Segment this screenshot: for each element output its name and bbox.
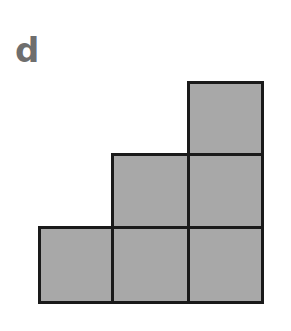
square-r1-c2 bbox=[187, 153, 264, 229]
square-r1-c1 bbox=[111, 153, 190, 229]
square-r0-c2 bbox=[187, 81, 264, 156]
square-r2-c1 bbox=[111, 226, 190, 304]
figure-label: d bbox=[15, 30, 39, 70]
square-r2-c2 bbox=[187, 226, 264, 304]
square-r2-c0 bbox=[38, 226, 114, 304]
